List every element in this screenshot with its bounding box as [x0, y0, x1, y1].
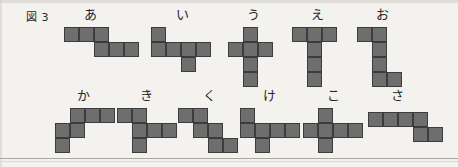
grid-cell — [413, 112, 428, 127]
scan-left-edge — [0, 0, 2, 167]
grid-cell — [181, 57, 196, 72]
grid-cell — [428, 127, 443, 142]
grid-cell — [132, 138, 147, 153]
grid-cell — [243, 72, 258, 87]
grid-cell — [307, 57, 322, 72]
grid-cell — [85, 108, 100, 123]
grid-cell — [372, 72, 387, 87]
grid-cell — [318, 123, 333, 138]
grid-cell — [240, 123, 255, 138]
grid-cell — [372, 57, 387, 72]
grid-cell — [228, 42, 243, 57]
grid-cell — [100, 108, 115, 123]
grid-cell — [387, 72, 402, 87]
grid-cell — [223, 138, 238, 153]
shape-label-け: け — [263, 89, 276, 102]
grid-cell — [368, 112, 383, 127]
grid-cell — [70, 123, 85, 138]
grid-cell — [255, 138, 270, 153]
grid-cell — [243, 27, 258, 42]
grid-cell — [208, 123, 223, 138]
grid-cell — [109, 42, 124, 57]
grid-cell — [413, 127, 428, 142]
grid-cell — [151, 42, 166, 57]
grid-cell — [307, 27, 322, 42]
shape-label-お: お — [376, 8, 389, 21]
grid-cell — [132, 108, 147, 123]
page-rule-primary — [0, 158, 458, 159]
grid-cell — [307, 42, 322, 57]
scan-top-edge — [0, 0, 458, 3]
shape-label-く: く — [203, 89, 216, 102]
grid-cell — [270, 123, 285, 138]
grid-cell — [333, 123, 348, 138]
shape-label-あ: あ — [84, 8, 97, 21]
grid-cell — [258, 42, 273, 57]
shape-label-さ: さ — [391, 89, 404, 102]
grid-cell — [398, 112, 413, 127]
grid-cell — [208, 138, 223, 153]
grid-cell — [79, 27, 94, 42]
grid-cell — [55, 138, 70, 153]
grid-cell — [64, 27, 79, 42]
grid-cell — [193, 123, 208, 138]
grid-cell — [322, 27, 337, 42]
grid-cell — [307, 72, 322, 87]
grid-cell — [243, 42, 258, 57]
grid-cell — [240, 108, 255, 123]
grid-cell — [348, 123, 363, 138]
grid-cell — [70, 108, 85, 123]
figure-sheet: 図 3 あいうえおかきくけこさ — [0, 0, 458, 167]
grid-cell — [292, 27, 307, 42]
grid-cell — [117, 108, 132, 123]
figure-caption: 図 3 — [26, 8, 49, 24]
grid-cell — [372, 42, 387, 57]
grid-cell — [94, 42, 109, 57]
grid-cell — [151, 27, 166, 42]
grid-cell — [166, 42, 181, 57]
grid-cell — [178, 108, 193, 123]
page-rule-secondary — [0, 161, 458, 162]
grid-cell — [243, 57, 258, 72]
grid-cell — [357, 27, 372, 42]
grid-cell — [285, 123, 300, 138]
grid-cell — [94, 27, 109, 42]
grid-cell — [55, 123, 70, 138]
shape-label-か: か — [77, 89, 90, 102]
shape-label-い: い — [176, 8, 189, 21]
shape-label-う: う — [247, 8, 260, 21]
grid-cell — [147, 123, 162, 138]
grid-cell — [383, 112, 398, 127]
grid-cell — [124, 42, 139, 57]
shape-label-え: え — [311, 8, 324, 21]
grid-cell — [181, 42, 196, 57]
grid-cell — [372, 27, 387, 42]
grid-cell — [196, 42, 211, 57]
grid-cell — [193, 108, 208, 123]
grid-cell — [303, 123, 318, 138]
grid-cell — [132, 123, 147, 138]
grid-cell — [255, 123, 270, 138]
grid-cell — [162, 123, 177, 138]
shape-label-き: き — [140, 89, 153, 102]
grid-cell — [318, 138, 333, 153]
grid-cell — [318, 108, 333, 123]
shape-label-こ: こ — [327, 89, 340, 102]
